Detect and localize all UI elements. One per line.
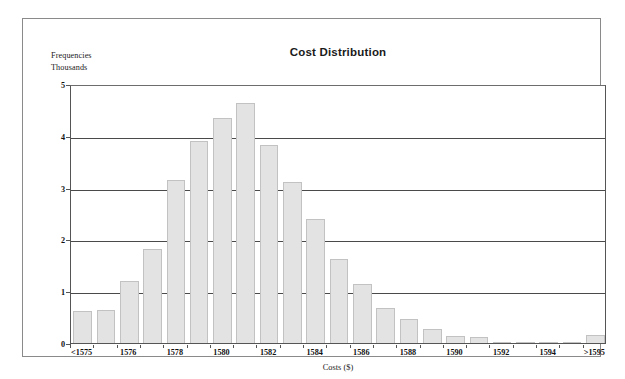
x-tick-label: <1575 bbox=[71, 348, 92, 357]
bar bbox=[306, 219, 325, 343]
bar bbox=[143, 249, 162, 343]
x-tick-mark bbox=[583, 345, 584, 348]
y-tick-label: 4 bbox=[51, 132, 65, 141]
x-tick-label: 1580 bbox=[213, 348, 229, 357]
bar bbox=[446, 336, 465, 343]
y-axis-caption-line-2: Thousands bbox=[51, 62, 92, 74]
bar bbox=[283, 182, 302, 343]
x-tick-mark bbox=[373, 345, 374, 348]
x-tick-mark bbox=[350, 345, 351, 348]
x-tick-mark bbox=[210, 345, 211, 348]
x-tick-mark bbox=[140, 345, 141, 348]
bar bbox=[423, 329, 442, 343]
x-tick-label: 1592 bbox=[493, 348, 509, 357]
y-tick-label: 3 bbox=[51, 184, 65, 193]
bar bbox=[470, 337, 489, 343]
x-tick-label: >1595 bbox=[584, 348, 605, 357]
bar bbox=[167, 180, 186, 343]
x-tick-mark bbox=[117, 345, 118, 348]
x-tick-mark bbox=[489, 345, 490, 348]
x-tick-label: 1588 bbox=[400, 348, 416, 357]
x-tick-mark bbox=[303, 345, 304, 348]
bar bbox=[376, 308, 395, 343]
x-tick-label: 1590 bbox=[446, 348, 462, 357]
bar bbox=[586, 335, 605, 343]
bar bbox=[213, 118, 232, 343]
bar bbox=[539, 342, 558, 343]
y-tick-label: 0 bbox=[51, 340, 65, 349]
x-tick-label: 1576 bbox=[120, 348, 136, 357]
x-tick-mark bbox=[70, 345, 71, 348]
x-tick-mark bbox=[443, 345, 444, 348]
bar bbox=[400, 319, 419, 343]
bars-layer bbox=[71, 86, 605, 343]
bar bbox=[516, 342, 535, 343]
bar bbox=[97, 310, 116, 343]
x-tick-mark bbox=[466, 345, 467, 348]
x-tick-mark bbox=[536, 345, 537, 348]
bar bbox=[493, 342, 512, 343]
x-tick-mark bbox=[93, 345, 94, 348]
x-tick-mark bbox=[163, 345, 164, 348]
x-tick-label: 1582 bbox=[260, 348, 276, 357]
x-tick-mark bbox=[187, 345, 188, 348]
x-tick-mark bbox=[233, 345, 234, 348]
y-axis-ticks: 012345 bbox=[49, 85, 65, 344]
x-axis-title: Costs ($) bbox=[70, 363, 606, 372]
x-tick-mark bbox=[420, 345, 421, 348]
x-tick-mark bbox=[513, 345, 514, 348]
x-tick-label: 1594 bbox=[540, 348, 556, 357]
x-tick-mark bbox=[396, 345, 397, 348]
x-tick-mark bbox=[256, 345, 257, 348]
bar bbox=[73, 311, 92, 343]
bar bbox=[563, 342, 582, 343]
y-tick-label: 5 bbox=[51, 81, 65, 90]
bar bbox=[236, 103, 255, 343]
x-tick-mark bbox=[326, 345, 327, 348]
x-tick-label: 1584 bbox=[307, 348, 323, 357]
bar bbox=[190, 141, 209, 343]
bar bbox=[260, 145, 279, 343]
x-tick-label: 1586 bbox=[353, 348, 369, 357]
x-tick-mark bbox=[559, 345, 560, 348]
y-tick-label: 1 bbox=[51, 288, 65, 297]
bar bbox=[330, 259, 349, 343]
bar bbox=[353, 284, 372, 343]
x-axis-ticks: <157515761578158015821584158615881590159… bbox=[70, 348, 606, 364]
bar bbox=[120, 281, 139, 343]
chart-title: Cost Distribution bbox=[70, 46, 606, 58]
x-tick-mark bbox=[280, 345, 281, 348]
plot-area bbox=[70, 85, 606, 344]
y-tick-label: 2 bbox=[51, 236, 65, 245]
x-tick-label: 1578 bbox=[167, 348, 183, 357]
figure-frame: Frequencies Thousands Cost Distribution … bbox=[22, 18, 601, 357]
